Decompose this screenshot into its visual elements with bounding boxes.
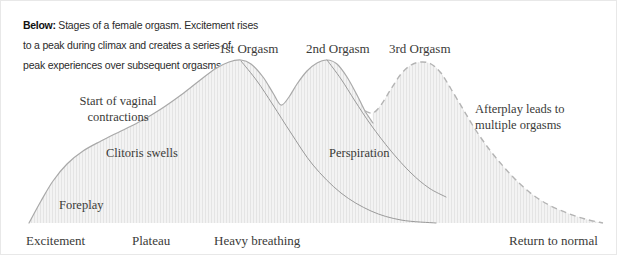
annotation-vaginal-contractions-line2: contractions	[58, 109, 178, 125]
axis-label-return-to-normal: Return to normal	[509, 233, 598, 249]
annotation-foreplay: Foreplay	[59, 198, 103, 213]
peak-label-3rd-orgasm: 3rd Orgasm	[389, 41, 451, 57]
arousal-area-fill	[29, 60, 603, 223]
annotation-afterplay: Afterplay leads to multiple orgasms	[475, 101, 605, 133]
peak-label-2nd-orgasm: 2nd Orgasm	[306, 41, 370, 57]
annotation-afterplay-line1: Afterplay leads to	[475, 101, 605, 117]
annotation-vaginal-contractions-line1: Start of vaginal	[58, 93, 178, 109]
annotation-vaginal-contractions: Start of vaginal contractions	[58, 93, 178, 125]
axis-label-plateau: Plateau	[132, 233, 170, 249]
chart-shapes	[29, 60, 603, 223]
annotation-clitoris-swells: Clitoris swells	[106, 146, 178, 161]
axis-label-heavy-breathing: Heavy breathing	[214, 233, 300, 249]
axis-label-excitement: Excitement	[26, 233, 85, 249]
annotation-perspiration: Perspiration	[329, 146, 389, 161]
peak-label-1st-orgasm: 1st Orgasm	[219, 41, 278, 57]
orgasm-stages-figure: Below: Stages of a female orgasm. Excite…	[0, 0, 617, 255]
annotation-afterplay-line2: multiple orgasms	[475, 117, 605, 133]
